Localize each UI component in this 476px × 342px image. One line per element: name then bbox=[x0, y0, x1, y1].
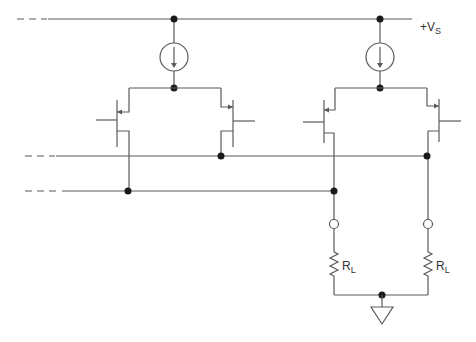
node-dot bbox=[171, 16, 178, 23]
circuit-schematic bbox=[0, 0, 476, 342]
output-terminal-right bbox=[424, 220, 433, 229]
supply-label: +VS bbox=[420, 21, 441, 36]
node-dot bbox=[125, 188, 132, 195]
transistor-q4 bbox=[427, 88, 461, 224]
resistor-rl-right bbox=[424, 229, 432, 296]
transistor-q1 bbox=[96, 88, 129, 191]
transistor-q2 bbox=[221, 88, 255, 156]
node-dot bbox=[331, 188, 338, 195]
output-terminal-left bbox=[330, 220, 339, 229]
resistor-rl-left bbox=[330, 229, 338, 296]
current-source-right bbox=[366, 19, 394, 88]
node-dot bbox=[377, 16, 384, 23]
load-label-right: RL bbox=[436, 260, 450, 275]
node-dot bbox=[218, 153, 225, 160]
node-dot bbox=[424, 153, 431, 160]
ground-icon bbox=[371, 295, 393, 324]
load-label-left: RL bbox=[342, 260, 356, 275]
current-source-left bbox=[160, 19, 188, 88]
